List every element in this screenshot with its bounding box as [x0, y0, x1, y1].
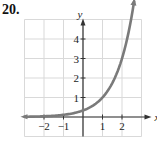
y-tick-label: 1 — [74, 92, 80, 104]
x-tick-label: 1 — [100, 120, 106, 132]
x-tick-label: −1 — [58, 120, 70, 132]
y-tick-label: 3 — [74, 53, 80, 65]
x-axis-arrow-icon — [145, 115, 152, 120]
y-tick-label: 4 — [74, 33, 80, 45]
y-tick-label: 2 — [74, 72, 80, 84]
tick-labels: −2−1121234xy — [38, 8, 157, 133]
x-axis-label: x — [154, 111, 158, 123]
exponential-graph: −2−1121234xy — [0, 0, 157, 144]
curve-arrow-right-icon — [130, 0, 136, 6]
y-axis-label: y — [77, 8, 83, 20]
x-tick-label: −2 — [38, 120, 50, 132]
x-tick-label: 2 — [119, 120, 125, 132]
